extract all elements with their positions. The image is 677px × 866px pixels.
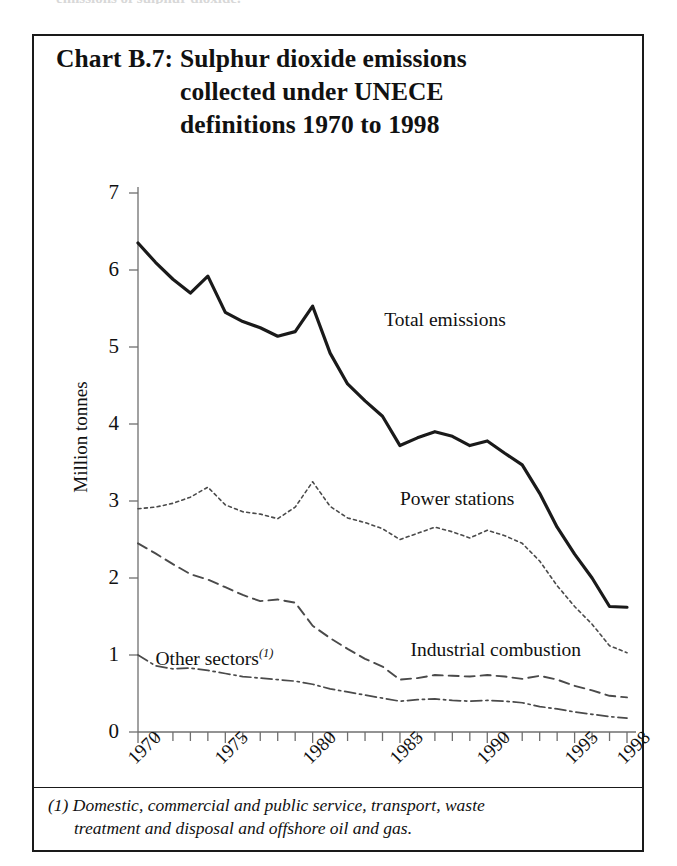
page-top-bleed-text: emissions of sulphur dioxide. — [56, 0, 386, 4]
y-tick-label: 3 — [93, 490, 119, 511]
y-axis-title: Million tonnes — [70, 357, 92, 517]
footnote-line-1: (1) Domestic, commercial and public serv… — [48, 794, 628, 817]
y-tick-label: 6 — [93, 259, 119, 280]
y-tick-label: 5 — [93, 336, 119, 357]
series-label-superscript: (1) — [259, 646, 274, 660]
series-label-industrial-combustion: Industrial combustion — [410, 640, 581, 660]
plot-area: Million tonnes 0123456719701975198019851… — [34, 36, 646, 854]
chart-footnote: (1) Domestic, commercial and public serv… — [48, 794, 628, 840]
series-line-total-emissions — [138, 243, 627, 607]
chart-figure-box: Chart B.7: Sulphur dioxide emissions col… — [32, 34, 644, 852]
y-tick-label: 7 — [93, 182, 119, 203]
series-label-other-sectors: Other sectors(1) — [155, 643, 273, 669]
series-line-power-stations — [138, 482, 627, 653]
y-tick-label: 4 — [93, 413, 119, 434]
series-line-industrial-combustion — [138, 543, 627, 697]
y-tick-label: 2 — [93, 567, 119, 588]
y-tick-label: 0 — [93, 721, 119, 742]
y-tick-label: 1 — [93, 644, 119, 665]
footnote-line-2: treatment and disposal and offshore oil … — [48, 817, 628, 840]
page-root: emissions of sulphur dioxide. Chart B.7:… — [0, 0, 677, 866]
series-label-total-emissions: Total emissions — [384, 310, 506, 330]
footnote-divider — [34, 787, 642, 788]
series-label-power-stations: Power stations — [400, 489, 514, 509]
chart-plot-svg — [34, 36, 646, 854]
